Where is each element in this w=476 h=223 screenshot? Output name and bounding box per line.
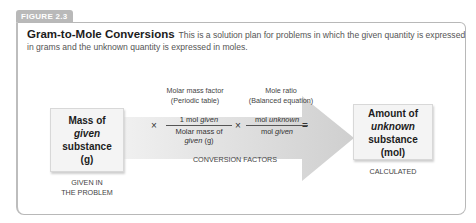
mole-ratio-label-line1: Mole ratio xyxy=(236,86,326,96)
given-box-line1: Mass of xyxy=(51,114,123,127)
calculated-caption: CALCULATED xyxy=(353,167,433,177)
molar-mass-factor-label: Molar mass factor (Periodic table) xyxy=(150,86,240,106)
figure-title: Gram-to-Mole Conversions xyxy=(27,28,175,40)
figure-label-badge: FIGURE 2.3 xyxy=(16,10,73,22)
given-caption: GIVEN IN THE PROBLEM xyxy=(50,178,124,198)
equals-operator: = xyxy=(302,120,308,131)
conversion-arrow-icon xyxy=(110,96,372,181)
given-caption-line2: THE PROBLEM xyxy=(50,188,124,198)
conversion-factors-caption: CONVERSION FACTORS xyxy=(170,155,300,165)
times-operator-2: × xyxy=(235,120,241,131)
unknown-box-line2: unknown xyxy=(354,120,432,133)
times-operator-1: × xyxy=(151,120,157,131)
unknown-amount-box: Amount of unknown substance (mol) xyxy=(353,104,433,160)
figure-caption: Gram-to-Mole ConversionsThis is a soluti… xyxy=(27,28,467,53)
given-box-line2: given xyxy=(51,127,123,140)
mole-ratio-label-line2: (Balanced equation) xyxy=(236,96,326,106)
mole-ratio-label: Mole ratio (Balanced equation) xyxy=(236,86,326,106)
molar-mass-label-line2: (Periodic table) xyxy=(150,96,240,106)
mole-ratio-denominator: mol given xyxy=(246,126,308,136)
given-box-line4: (g) xyxy=(51,153,123,166)
mole-ratio-fraction: mol unknown mol given xyxy=(246,115,308,136)
molar-mass-label-line1: Molar mass factor xyxy=(150,86,240,96)
unknown-box-line4: (mol) xyxy=(354,146,432,159)
unknown-box-line3: substance xyxy=(354,133,432,146)
given-mass-box: Mass of given substance (g) xyxy=(50,108,124,172)
molar-mass-denominator: Molar mass ofgiven (g) xyxy=(166,126,232,145)
molar-mass-fraction: 1 mol given Molar mass ofgiven (g) xyxy=(166,115,232,145)
given-caption-line1: GIVEN IN xyxy=(50,178,124,188)
unknown-box-line1: Amount of xyxy=(354,107,432,120)
mole-ratio-numerator: mol unknown xyxy=(246,115,308,126)
molar-mass-numerator: 1 mol given xyxy=(166,115,232,126)
given-box-line3: substance xyxy=(51,140,123,153)
